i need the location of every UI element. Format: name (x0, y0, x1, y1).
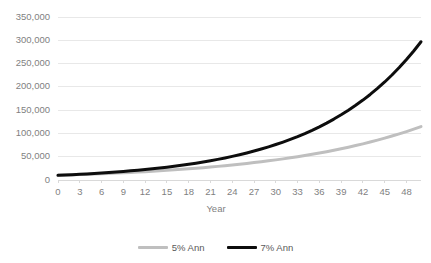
x-axis-tick-label: 39 (336, 186, 347, 197)
y-axis-tick-label: 200,000 (16, 80, 50, 91)
legend-label-5pct: 5% Ann (172, 242, 205, 253)
x-axis-tick-label: 33 (292, 186, 303, 197)
y-axis-tick-label: 100,000 (16, 127, 50, 138)
gridlines (58, 17, 421, 183)
x-axis-tick-label: 0 (55, 186, 60, 197)
legend-item-7pct[interactable]: 7% Ann (227, 242, 294, 253)
x-axis-tick-label: 15 (162, 186, 173, 197)
x-axis-tick-label: 27 (249, 186, 260, 197)
x-axis-tick-label: 6 (99, 186, 104, 197)
x-axis-tick-label: 18 (183, 186, 194, 197)
legend-swatch-7pct (227, 246, 257, 249)
x-axis-tick-label: 24 (227, 186, 238, 197)
legend-item-5pct[interactable]: 5% Ann (138, 242, 205, 253)
y-axis-tick-label: 50,000 (21, 150, 50, 161)
legend-swatch-5pct (138, 246, 168, 249)
x-axis-title: Year (206, 203, 225, 214)
x-axis-tick-label: 42 (358, 186, 369, 197)
x-axis-tick-label: 3 (77, 186, 82, 197)
x-axis-tick-label: 12 (140, 186, 151, 197)
y-axis-tick-label: 300,000 (16, 34, 50, 45)
y-axis-tick-label: 0 (45, 174, 50, 185)
y-axis-tick-label: 250,000 (16, 57, 50, 68)
series-lines (58, 42, 421, 176)
x-axis-tick-label: 36 (314, 186, 325, 197)
y-axis-tick-label: 350,000 (16, 11, 50, 22)
x-axis-tick-label: 21 (205, 186, 216, 197)
chart-legend: 5% Ann 7% Ann (0, 236, 431, 258)
x-axis-tick-label: 9 (121, 186, 126, 197)
legend-label-7pct: 7% Ann (261, 242, 294, 253)
x-axis-tick-labels: 036912151821242730333639424548 (55, 186, 411, 197)
series-line-7pct (58, 42, 421, 176)
x-axis-tick-label: 45 (379, 186, 390, 197)
y-axis-tick-label: 150,000 (16, 104, 50, 115)
line-chart: 050,000100,000150,000200,000250,000300,0… (0, 0, 431, 263)
x-axis-tick-label: 30 (271, 186, 282, 197)
chart-plot-area: 050,000100,000150,000200,000250,000300,0… (0, 0, 431, 263)
y-axis-tick-labels: 050,000100,000150,000200,000250,000300,0… (16, 11, 50, 185)
x-axis-tick-label: 48 (401, 186, 412, 197)
